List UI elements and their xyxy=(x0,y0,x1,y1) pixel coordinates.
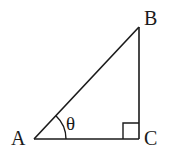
vertex-label-c: C xyxy=(144,127,157,149)
vertex-label-a: A xyxy=(11,127,26,149)
angle-label-theta: θ xyxy=(66,113,75,134)
right-angle-marker xyxy=(123,123,139,139)
angle-arc xyxy=(56,116,66,139)
right-triangle-diagram: A B C θ xyxy=(0,0,172,153)
vertex-label-b: B xyxy=(144,7,157,29)
side-ab xyxy=(34,27,139,139)
